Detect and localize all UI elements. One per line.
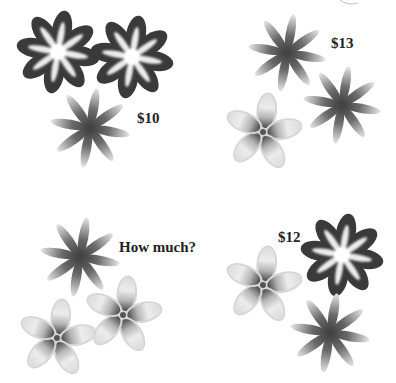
star-flower — [40, 217, 120, 297]
price-label-group-4: $12 — [278, 230, 301, 245]
flowers-canvas — [0, 0, 396, 383]
question-label: How much? — [119, 240, 196, 255]
dark-daisy-flower — [299, 212, 385, 298]
dark-daisy-flower — [89, 14, 175, 100]
star-flower — [290, 293, 370, 373]
star-flower — [248, 14, 326, 92]
price-label-group-2: $13 — [331, 36, 354, 51]
plumeria-flower — [83, 275, 165, 356]
plumeria-flower — [223, 92, 305, 173]
flower-price-puzzle: $10 $13 How much? $12 — [0, 0, 396, 383]
dark-daisy-flower — [15, 9, 101, 95]
star-flower — [303, 66, 381, 144]
plumeria-flower — [223, 245, 305, 326]
star-flower — [50, 88, 130, 168]
edge-fragment — [340, 0, 358, 4]
price-label-group-1: $10 — [137, 111, 160, 126]
plumeria-flower — [17, 298, 99, 379]
